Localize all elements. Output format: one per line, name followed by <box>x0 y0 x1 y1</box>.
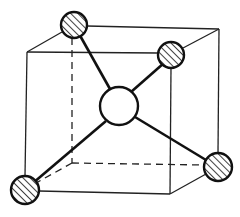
corner-atom-front-top-right <box>158 42 184 68</box>
corner-atom-front-bottom-left <box>11 176 39 204</box>
front-right-edge <box>170 68 171 194</box>
back-right-edge <box>218 29 219 153</box>
depth-top-left-edge <box>27 32 62 52</box>
central-atom <box>100 87 138 125</box>
cube-diagram <box>0 0 240 217</box>
corner-atom-back-bottom-right <box>204 153 232 181</box>
depth-top-right-edge <box>183 29 219 48</box>
depth-bottom-right-edge <box>170 174 206 194</box>
bond-back-top-left <box>78 32 110 89</box>
corner-atom-back-top-left <box>61 12 87 38</box>
front-bottom-edge <box>39 191 170 194</box>
bond-front-bottom-left <box>33 121 106 183</box>
front-top-edge <box>27 52 158 53</box>
front-left-edge <box>25 52 27 176</box>
hidden-horizontal-edge <box>72 163 204 165</box>
back-top-edge <box>87 26 219 29</box>
bond-front-top-right <box>131 63 164 92</box>
